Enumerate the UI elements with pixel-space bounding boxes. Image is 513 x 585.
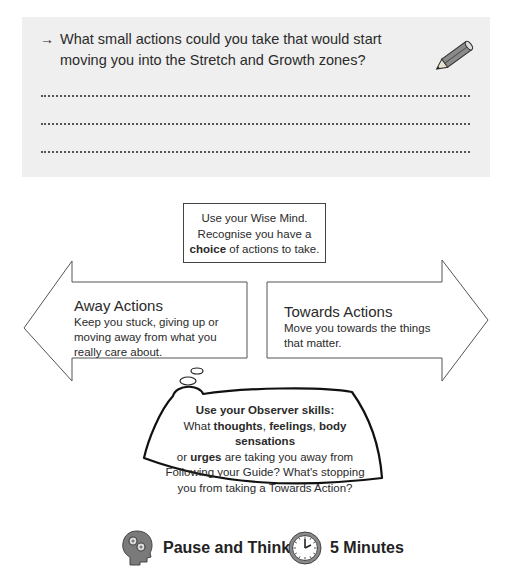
towards-desc-2: that matter. [284, 336, 430, 351]
pause-label: Pause and Think [163, 539, 290, 557]
observer-line-2: What thoughts, feelings, body sensations [160, 419, 370, 450]
time-label: 5 Minutes [330, 539, 404, 557]
actions-diagram [0, 0, 513, 585]
observer-heading: Use your Observer skills: [196, 404, 335, 416]
observer-line-4: Following your Guide? What's stopping [160, 465, 370, 481]
wise-mind-line-3: choice of actions to take. [184, 242, 325, 258]
choice-emphasis: choice [190, 243, 226, 255]
observer-line-5: you from taking a Towards Action? [160, 481, 370, 497]
away-desc-2: moving away from what you [74, 330, 218, 345]
clock-icon [288, 531, 322, 565]
observer-bubble-text: Use your Observer skills: What thoughts,… [160, 403, 370, 496]
wise-mind-line-3-rest: of actions to take. [226, 243, 319, 255]
towards-actions-title: Towards Actions [284, 303, 430, 321]
towards-desc-1: Move you towards the things [284, 321, 430, 336]
away-desc-3: really care about. [74, 345, 218, 360]
observer-line-3: or urges are taking you away from [160, 450, 370, 466]
thought-dot-large [180, 377, 196, 385]
towards-actions-text: Towards Actions Move you towards the thi… [284, 303, 430, 351]
thought-dot-small [191, 368, 203, 374]
away-desc-1: Keep you stuck, giving up or [74, 315, 218, 330]
time-estimate: 5 Minutes [288, 531, 404, 565]
wise-mind-box: Use your Wise Mind. Recognise you have a… [183, 203, 326, 263]
head-gears-icon [120, 530, 154, 566]
wise-mind-line-1: Use your Wise Mind. [184, 211, 325, 227]
wise-mind-line-2: Recognise you have a [184, 227, 325, 243]
away-actions-text: Away Actions Keep you stuck, giving up o… [74, 297, 218, 360]
away-actions-title: Away Actions [74, 297, 218, 315]
pause-and-think: Pause and Think [120, 530, 290, 566]
